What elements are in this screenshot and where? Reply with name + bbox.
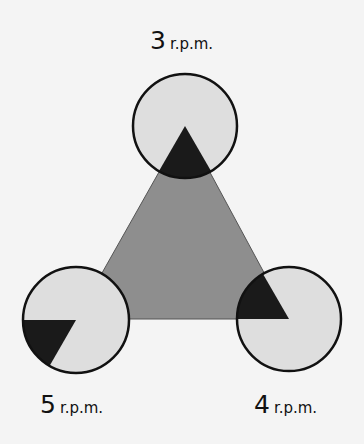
left-speed-number: 5 xyxy=(40,390,56,419)
gear-triangle-diagram xyxy=(0,0,364,444)
right-speed-label: 4r.p.m. xyxy=(254,390,317,419)
left-speed-unit: r.p.m. xyxy=(60,399,103,417)
top-circle xyxy=(133,74,237,178)
right-circle xyxy=(237,267,341,371)
top-speed-label: 3r.p.m. xyxy=(150,26,213,55)
top-speed-unit: r.p.m. xyxy=(170,35,213,53)
left-circle xyxy=(23,267,129,373)
top-speed-number: 3 xyxy=(150,26,166,55)
right-speed-unit: r.p.m. xyxy=(274,399,317,417)
left-speed-label: 5r.p.m. xyxy=(40,390,103,419)
right-speed-number: 4 xyxy=(254,390,270,419)
